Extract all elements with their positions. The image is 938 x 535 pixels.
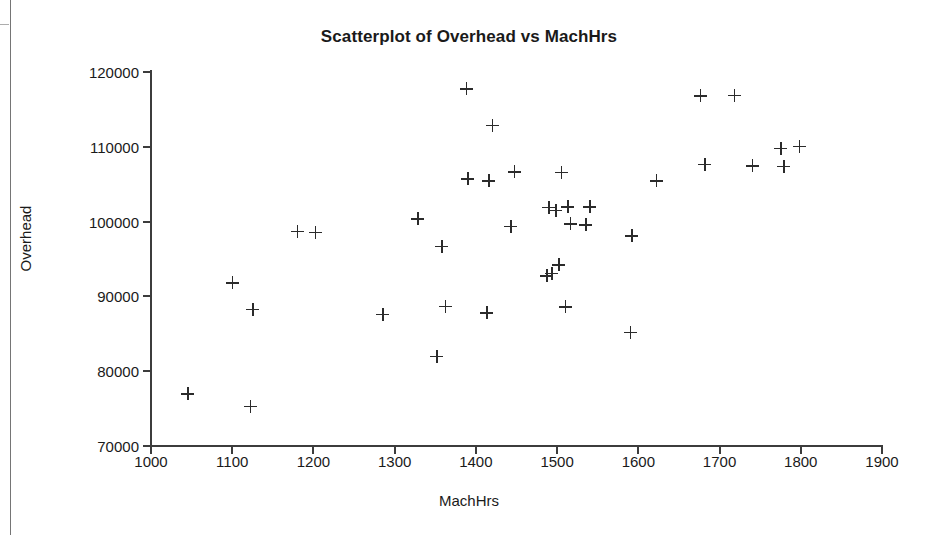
data-point [793, 140, 806, 153]
x-axis-tick-label: 1600 [598, 453, 678, 470]
data-point [777, 160, 790, 173]
data-point [552, 258, 565, 271]
y-axis-tick-mark [143, 370, 150, 372]
data-point [508, 165, 521, 178]
x-axis-tick-mark [637, 447, 639, 454]
data-point [291, 225, 304, 238]
data-point [694, 89, 707, 102]
y-axis-tick-mark [143, 71, 150, 73]
x-axis-tick-mark [800, 447, 802, 454]
x-axis-tick-mark [312, 447, 314, 454]
data-point [461, 172, 474, 185]
data-point [774, 142, 787, 155]
x-axis-tick-mark [719, 447, 721, 454]
x-axis-tick-label: 1300 [355, 453, 435, 470]
data-point [555, 166, 568, 179]
data-point [549, 204, 562, 217]
data-point [460, 82, 473, 95]
y-axis-tick-label: 100000 [47, 213, 139, 230]
data-point [411, 212, 424, 225]
x-axis-tick-label: 1700 [680, 453, 760, 470]
x-axis-tick-label: 1900 [842, 453, 922, 470]
data-point [435, 240, 448, 253]
x-axis-tick-label: 1000 [111, 453, 191, 470]
x-axis-tick-label: 1200 [273, 453, 353, 470]
x-axis-tick-mark [556, 447, 558, 454]
data-point [439, 300, 452, 313]
scatterplot-chart: Scatterplot of Overhead vs MachHrs 70000… [0, 0, 938, 535]
chart-title: Scatterplot of Overhead vs MachHrs [0, 27, 938, 47]
data-point [430, 350, 443, 363]
data-point [583, 200, 596, 213]
y-axis-tick-label: 80000 [47, 363, 139, 380]
data-point [309, 226, 322, 239]
y-axis-tick-mark [143, 445, 150, 447]
x-axis-tick-label: 1800 [761, 453, 841, 470]
y-axis-title: Overhead [17, 159, 34, 319]
y-axis-tick-label: 70000 [47, 438, 139, 455]
data-point [244, 400, 257, 413]
data-point [746, 159, 759, 172]
x-axis-tick-mark [475, 447, 477, 454]
data-point [561, 200, 574, 213]
data-point [698, 158, 711, 171]
data-point [181, 387, 194, 400]
data-point [579, 218, 592, 231]
x-axis-tick-mark [231, 447, 233, 454]
data-point [559, 300, 572, 313]
x-axis-tick-label: 1500 [517, 453, 597, 470]
data-point [564, 217, 577, 230]
x-axis-tick-mark [394, 447, 396, 454]
y-axis-tick-mark [143, 221, 150, 223]
y-axis-tick-label: 110000 [47, 138, 139, 155]
x-axis-tick-label: 1100 [192, 453, 272, 470]
data-point [504, 220, 517, 233]
data-point [486, 119, 499, 132]
data-point [624, 326, 637, 339]
data-point [480, 306, 493, 319]
data-point [482, 174, 495, 187]
x-axis-tick-mark [150, 447, 152, 454]
x-axis-tick-mark [881, 447, 883, 454]
plot-area [151, 72, 882, 446]
x-axis-tick-label: 1400 [436, 453, 516, 470]
y-axis-tick-label: 120000 [47, 64, 139, 81]
y-axis-tick-mark [143, 146, 150, 148]
data-point [246, 303, 259, 316]
data-point [728, 89, 741, 102]
y-axis-tick-mark [143, 295, 150, 297]
x-axis-title: MachHrs [0, 492, 938, 509]
data-point [625, 229, 638, 242]
y-axis-tick-label: 90000 [47, 288, 139, 305]
data-point [226, 276, 239, 289]
data-point [650, 174, 663, 187]
data-point [376, 308, 389, 321]
